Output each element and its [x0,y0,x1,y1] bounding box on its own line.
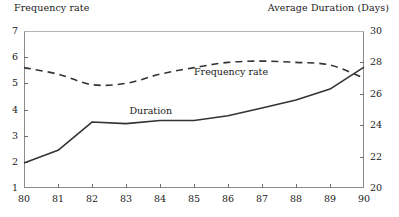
x-axis-tick-label: 82 [86,194,98,204]
left-axis-tick-label: 6 [12,52,18,62]
x-axis-tick-label: 83 [120,194,132,204]
left-axis-tick-label: 3 [12,131,18,141]
x-axis-tick-label: 85 [188,194,200,204]
x-axis-tick-label: 81 [52,194,64,204]
series-duration-line [24,67,364,163]
right-axis-title: Average Duration (Days) [268,2,389,13]
right-axis-tick-label: 28 [370,58,382,68]
series-label-frequency-rate: Frequency rate [194,66,268,77]
right-axis-tick-label: 22 [370,152,382,162]
series-lines [24,31,364,188]
plot-area: 1234567 202224262830 8081828384858687888… [24,31,364,188]
left-axis-tick-label: 1 [12,183,18,193]
x-axis-tick-label: 87 [256,194,268,204]
chart-figure: Frequency rate Average Duration (Days) 1… [0,0,399,217]
x-axis-tick-label: 80 [18,194,30,204]
x-axis-tick-label: 86 [222,194,234,204]
left-axis-tick-label: 2 [12,157,18,167]
x-axis-tick-label: 84 [154,194,166,204]
series-label-duration: Duration [129,105,172,116]
right-axis-tick-label: 24 [370,120,382,130]
x-axis-tick-label: 88 [290,194,302,204]
x-axis-tick-label: 90 [358,194,370,204]
left-axis-tick-label: 5 [12,79,18,89]
right-axis-tick-label: 20 [370,183,382,193]
right-axis-tick-label: 26 [370,89,382,99]
left-axis-title: Frequency rate [14,2,89,13]
left-axis-tick-label: 4 [12,105,18,115]
right-axis-tick-label: 30 [370,26,382,36]
left-axis-tick-label: 7 [12,26,18,36]
x-axis-tick-label: 89 [324,194,336,204]
